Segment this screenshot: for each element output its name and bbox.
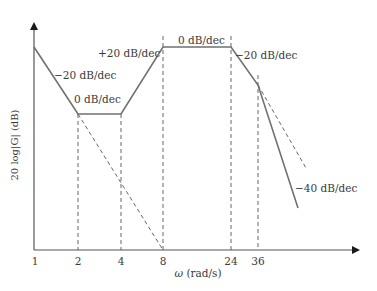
slope-label-seg6: −40 dB/dec: [295, 183, 357, 194]
x-axis-label: ω (rad/s): [174, 267, 221, 279]
x-tick-36: 36: [251, 256, 264, 267]
extension-minus20-from-36: [258, 85, 306, 168]
x-tick-8: 8: [160, 256, 167, 267]
x-tick-4: 4: [118, 256, 125, 267]
x-tick-24: 24: [224, 256, 237, 267]
x-tick-1: 1: [32, 256, 39, 267]
slope-label-seg5: −20 dB/dec: [235, 50, 297, 61]
slope-label-seg3: +20 dB/dec: [98, 48, 160, 59]
slope-label-seg2: 0 dB/dec: [74, 94, 121, 105]
omega-symbol: ω: [174, 267, 183, 279]
asymptote-extensions: [78, 85, 306, 250]
slope-label-seg1: −20 dB/dec: [54, 70, 116, 81]
x-tick-2: 2: [75, 256, 82, 267]
x-axis-unit: (rad/s): [186, 267, 221, 279]
y-axis-label: 20 log|G| (dB): [9, 95, 20, 195]
slope-label-seg4: 0 dB/dec: [178, 35, 225, 46]
